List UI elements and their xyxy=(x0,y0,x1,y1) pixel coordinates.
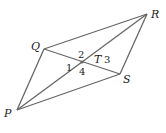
side-sp xyxy=(17,74,120,110)
angle-label-4: 4 xyxy=(79,66,85,77)
vertex-label-p: P xyxy=(3,107,12,120)
intersection-point xyxy=(80,60,83,63)
angle-label-2: 2 xyxy=(78,49,84,60)
intersection-label-t: T xyxy=(94,53,103,66)
side-qr xyxy=(44,14,147,49)
side-rs xyxy=(120,14,147,74)
parallelogram-diagram: PQRST 1234 xyxy=(0,0,166,133)
vertex-label-s: S xyxy=(123,73,131,86)
vertex-label-r: R xyxy=(150,8,159,21)
side-pq xyxy=(17,49,44,110)
angle-label-3: 3 xyxy=(104,54,110,65)
angle-label-1: 1 xyxy=(66,62,72,73)
vertex-label-q: Q xyxy=(31,40,40,53)
